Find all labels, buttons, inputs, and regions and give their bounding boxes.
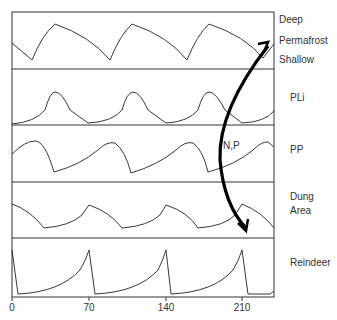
tick-210: 210 xyxy=(234,302,251,313)
panels-svg xyxy=(0,0,337,320)
np-arrow xyxy=(220,42,268,231)
tick-140: 140 xyxy=(158,302,175,313)
label-deep: Deep xyxy=(279,14,303,26)
label-area: Area xyxy=(290,205,311,217)
label-shallow: Shallow xyxy=(279,54,314,66)
label-np: N,P xyxy=(223,140,240,152)
tick-0: 0 xyxy=(9,302,15,313)
tick-70: 70 xyxy=(83,302,94,313)
label-dung: Dung xyxy=(290,191,314,203)
label-permafrost: Permafrost xyxy=(279,35,328,47)
label-reindeer: Reindeer xyxy=(290,257,331,269)
permafrost-curve xyxy=(12,24,274,60)
reindeer-curve xyxy=(12,250,274,294)
dung-area-curve xyxy=(12,204,274,228)
frame xyxy=(12,12,274,297)
diagram: Deep Permafrost Shallow PLi PP Dung Area… xyxy=(0,0,337,320)
label-pli: PLi xyxy=(290,92,304,104)
label-pp: PP xyxy=(290,144,303,156)
